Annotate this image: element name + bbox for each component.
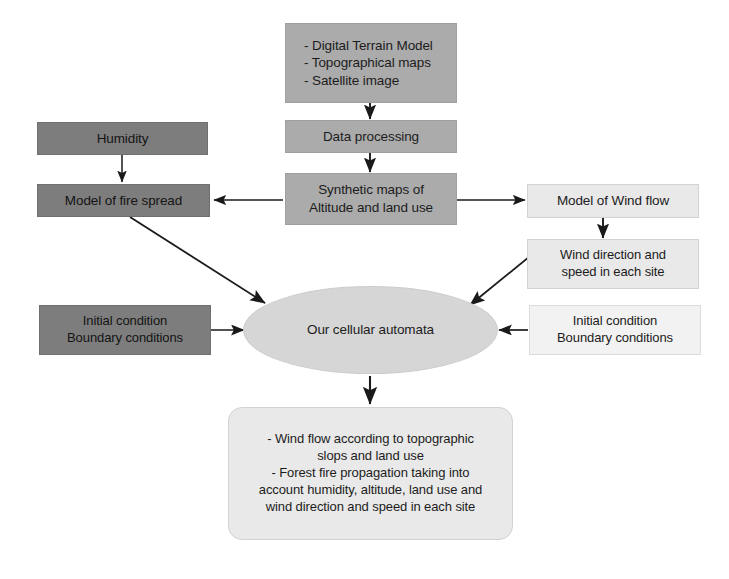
node-initial-condition-left: Initial condition Boundary conditions bbox=[39, 305, 211, 355]
node-data-processing: Data processing bbox=[285, 120, 457, 153]
node-humidity: Humidity bbox=[37, 122, 208, 155]
node-initial-condition-right: Initial condition Boundary conditions bbox=[529, 305, 701, 355]
flowchart-canvas: - Digital Terrain Model - Topographical … bbox=[0, 0, 729, 579]
node-outputs: - Wind flow according to topographic slo… bbox=[228, 407, 513, 540]
node-cellular-automata: Our cellular automata bbox=[243, 286, 498, 374]
node-model-wind-flow: Model of Wind flow bbox=[527, 184, 699, 218]
node-synthetic-maps: Synthetic maps of Altitude and land use bbox=[285, 173, 457, 225]
node-model-fire-spread: Model of fire spread bbox=[37, 184, 210, 217]
node-inputs: - Digital Terrain Model - Topographical … bbox=[285, 23, 457, 103]
node-wind-direction-speed: Wind direction and speed in each site bbox=[527, 239, 699, 289]
edge-model-fire-spread-to-cellular-automata bbox=[130, 217, 265, 303]
